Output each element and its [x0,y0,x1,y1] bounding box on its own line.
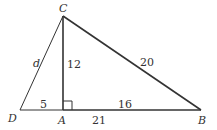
vertex-label-b: B [197,114,206,127]
vertex-label-c: C [59,2,68,15]
segment-dc [20,16,63,110]
label-dc: d [33,57,40,70]
geometry-diagram: C D A B d 12 20 5 16 21 [0,0,217,130]
vertex-label-d: D [7,112,17,125]
segment-cb [63,16,201,110]
label-cb: 20 [140,56,154,69]
label-ab-total: 21 [92,114,106,127]
right-angle-marker [63,101,72,110]
label-ca: 12 [67,58,81,71]
label-da: 5 [40,98,47,111]
vertex-label-a: A [57,114,66,127]
label-ab-inner: 16 [118,98,132,111]
